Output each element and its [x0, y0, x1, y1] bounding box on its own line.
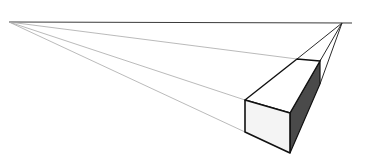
perspective-diagram — [0, 0, 367, 166]
horizon-line — [9, 22, 352, 23]
guide-line — [9, 22, 245, 132]
guide-line — [9, 22, 297, 59]
perspective-drawing — [0, 0, 367, 166]
guide-line — [9, 22, 245, 100]
guide-line — [320, 23, 342, 61]
